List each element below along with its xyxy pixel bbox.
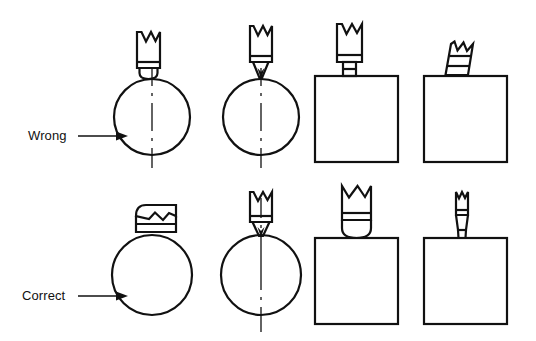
- figure-root: Wrong: [0, 0, 536, 341]
- figure-correct-circle-pointed-tool: [221, 192, 301, 332]
- row-label-correct: Correct: [22, 288, 66, 303]
- tool-stepped-shank-vertical: [337, 24, 362, 76]
- square-outline: [424, 238, 507, 324]
- figure-wrong-square-stepped-tool: [315, 24, 398, 162]
- figure-correct-square-slim-tool: [424, 192, 507, 324]
- square-outline: [315, 238, 398, 324]
- tool-flattened-horizontal: [135, 205, 177, 232]
- figure-wrong-circle-flat-tool: [114, 32, 190, 168]
- figure-wrong-circle-pointed-tool: [223, 26, 299, 168]
- square-outline: [315, 76, 398, 162]
- circle-outline: [112, 235, 192, 315]
- figure-wrong-square-tilted-tool: [424, 42, 507, 163]
- figure-correct-square-round-tool: [315, 186, 398, 324]
- row-wrong: Wrong: [28, 24, 507, 168]
- square-outline: [424, 76, 507, 162]
- row-label-wrong: Wrong: [28, 128, 67, 143]
- figure-correct-circle-flattened-tool: [112, 205, 192, 315]
- tool-slim-tapered-vertical: [456, 192, 468, 238]
- row-correct: Correct: [22, 186, 507, 332]
- tool-round-nose-vertical: [342, 186, 371, 238]
- tool-flat-end-vertical: [137, 32, 160, 79]
- tool-tilted: [446, 42, 474, 76]
- technical-drawing-canvas: Wrong: [0, 0, 536, 341]
